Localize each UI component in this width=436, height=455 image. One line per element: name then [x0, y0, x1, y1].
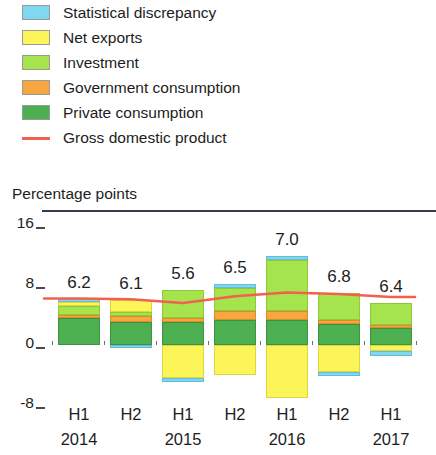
- x-axis-period-label: H1: [53, 405, 105, 424]
- legend-item-label: Investment: [63, 54, 139, 71]
- bar-segment[interactable]: [214, 284, 256, 288]
- legend-item-label: Government consumption: [63, 79, 240, 96]
- bar-segment[interactable]: [266, 256, 308, 260]
- legend-swatch-government-consumption: [22, 80, 50, 95]
- bar-value-label: 6.2: [53, 273, 105, 293]
- bar-segment[interactable]: [318, 372, 360, 376]
- bar-segment[interactable]: [58, 299, 100, 302]
- x-axis-period-label: H1: [261, 405, 313, 424]
- y-axis-tick-label: 16: [4, 214, 34, 232]
- legend-item[interactable]: Net exports: [0, 25, 436, 50]
- bar-value-label: 6.4: [365, 277, 417, 297]
- bar-segment[interactable]: [214, 311, 256, 321]
- legend-swatch-statistical-discrepancy: [22, 5, 50, 20]
- legend-item[interactable]: Government consumption: [0, 75, 436, 100]
- bar-segment[interactable]: [266, 320, 308, 345]
- x-axis-tick-mark: [104, 341, 105, 345]
- x-axis-year-label: 2015: [157, 430, 209, 449]
- y-axis-title: Percentage points: [12, 185, 137, 203]
- chart-legend: Statistical discrepancyNet exportsInvest…: [0, 0, 436, 150]
- legend-line-gross-domestic-product: [22, 130, 50, 145]
- bar-segment[interactable]: [266, 260, 308, 311]
- x-axis-year-label: 2014: [53, 430, 105, 449]
- x-axis-period-label: H2: [209, 405, 261, 424]
- bar-segment[interactable]: [110, 322, 152, 345]
- x-axis-tick-mark: [156, 341, 157, 345]
- bar-segment[interactable]: [162, 322, 204, 345]
- bar-segment[interactable]: [266, 311, 308, 321]
- bar-segment[interactable]: [162, 345, 204, 378]
- bar-segment[interactable]: [58, 306, 100, 315]
- legend-item[interactable]: Investment: [0, 50, 436, 75]
- x-axis-year-label: 2017: [365, 430, 417, 449]
- x-axis-tick-mark: [364, 341, 365, 345]
- bar-segment[interactable]: [266, 345, 308, 398]
- y-axis-tick-mark: [36, 287, 45, 289]
- y-axis-tick-label: 0: [4, 334, 34, 352]
- x-axis-tick-mark: [52, 341, 53, 345]
- x-axis-tick-mark: [312, 341, 313, 345]
- bar-value-label: 7.0: [261, 230, 313, 250]
- bar-segment[interactable]: [110, 345, 152, 348]
- bar-segment[interactable]: [370, 351, 412, 356]
- legend-item[interactable]: Private consumption: [0, 100, 436, 125]
- legend-swatch-private-consumption: [22, 105, 50, 120]
- x-axis-period-label: H2: [313, 405, 365, 424]
- bar-segment[interactable]: [370, 328, 412, 345]
- bar-segment[interactable]: [58, 318, 100, 345]
- bar-segment[interactable]: [162, 290, 204, 318]
- x-axis-period-label: H2: [105, 405, 157, 424]
- bar-value-label: 5.6: [157, 264, 209, 284]
- bar-segment[interactable]: [162, 378, 204, 382]
- legend-item[interactable]: Gross domestic product: [0, 125, 436, 150]
- y-axis-tick-mark: [36, 347, 45, 349]
- x-axis-tick-mark: [416, 341, 417, 345]
- y-axis-tick-label: -8: [4, 394, 34, 412]
- y-axis-tick-mark: [36, 407, 45, 409]
- legend-item-label: Gross domestic product: [63, 129, 227, 146]
- bar-value-label: 6.1: [105, 274, 157, 294]
- bar-segment[interactable]: [58, 315, 100, 318]
- chart-plot-area: 1680-8 6.26.15.66.57.06.86.4 H1H2H1H2H1H…: [0, 210, 436, 455]
- legend-line-mark: [22, 137, 50, 140]
- x-axis-period-label: H1: [157, 405, 209, 424]
- bar-segment[interactable]: [318, 320, 360, 324]
- bar-segment[interactable]: [110, 300, 152, 312]
- bar-segment[interactable]: [110, 316, 152, 322]
- x-axis-year-label: 2016: [261, 430, 313, 449]
- y-axis-tick-mark: [36, 227, 45, 229]
- bar-segment[interactable]: [214, 288, 256, 311]
- y-axis-tick-label: 8: [4, 274, 34, 292]
- bar-segment[interactable]: [318, 324, 360, 345]
- bar-value-label: 6.8: [313, 267, 365, 287]
- bar-segment[interactable]: [214, 320, 256, 345]
- x-axis-period-label: H1: [365, 405, 417, 424]
- bar-segment[interactable]: [110, 312, 152, 316]
- legend-item-label: Private consumption: [63, 104, 203, 121]
- bar-segment[interactable]: [318, 345, 360, 372]
- x-axis-tick-mark: [208, 341, 209, 345]
- bar-segment[interactable]: [318, 293, 360, 321]
- legend-item[interactable]: Statistical discrepancy: [0, 0, 436, 25]
- bar-segment[interactable]: [58, 302, 100, 307]
- bar-value-label: 6.5: [209, 258, 261, 278]
- bar-segment[interactable]: [162, 318, 204, 322]
- x-axis-tick-mark: [260, 341, 261, 345]
- bar-segment[interactable]: [370, 325, 412, 328]
- legend-swatch-investment: [22, 55, 50, 70]
- bar-segment[interactable]: [370, 303, 412, 325]
- bar-segment[interactable]: [214, 345, 256, 375]
- legend-item-label: Statistical discrepancy: [63, 4, 216, 21]
- legend-swatch-net-exports: [22, 30, 50, 45]
- legend-item-label: Net exports: [63, 29, 142, 46]
